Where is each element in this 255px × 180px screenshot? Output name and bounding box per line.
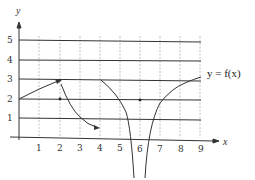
svg-text:1: 1 [36,143,42,153]
function-curves [19,77,201,178]
svg-text:5: 5 [7,35,13,45]
right-left-branch [101,80,134,178]
svg-text:7: 7 [157,144,163,154]
x-axis-label: x [222,136,228,147]
middle-piece [61,84,96,127]
vertical-grid [39,36,200,138]
svg-text:3: 3 [77,143,83,153]
y-tick-labels: 5 4 3 2 1 [7,35,13,123]
right-right-branch [145,77,201,178]
left-piece [19,81,58,99]
function-label: y = f(x) [207,67,241,80]
horizontal-grid [19,40,201,120]
svg-text:6: 6 [137,144,143,154]
svg-text:4: 4 [7,55,13,65]
svg-text:8: 8 [178,144,184,154]
function-graph: y x 5 4 3 2 1 1 2 3 4 5 6 7 8 9 y = f(x) [0,0,255,180]
svg-text:4: 4 [97,143,103,153]
y-axis-label: y [15,5,21,16]
svg-text:5: 5 [117,143,123,153]
svg-text:9: 9 [198,144,204,154]
svg-text:2: 2 [57,143,63,153]
x-tick-labels: 1 2 3 4 5 6 7 8 9 [36,143,204,154]
svg-text:1: 1 [7,113,13,123]
svg-text:2: 2 [7,94,13,104]
arrow-middle-piece [94,125,100,130]
svg-text:3: 3 [7,74,13,84]
